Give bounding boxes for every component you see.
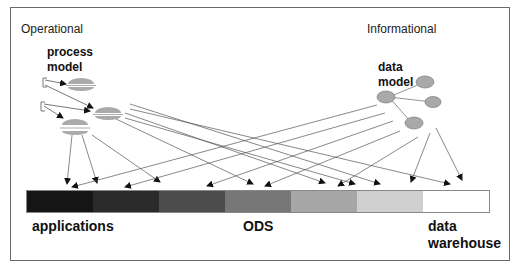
data-warehouse-label-line2: warehouse bbox=[428, 235, 501, 252]
bar-segment-3 bbox=[159, 191, 225, 212]
bar-segment-5 bbox=[291, 191, 357, 212]
data-node-1 bbox=[416, 76, 434, 88]
data-spectrum-bar bbox=[26, 190, 490, 213]
bar-segment-2 bbox=[93, 191, 159, 212]
bar-segment-6 bbox=[357, 191, 423, 212]
data-node-root bbox=[377, 91, 395, 103]
data-node-3 bbox=[405, 117, 423, 129]
informational-arrows bbox=[72, 105, 462, 187]
applications-label: applications bbox=[32, 218, 114, 235]
bar-segment-4 bbox=[225, 191, 291, 212]
process-node-2 bbox=[93, 107, 123, 120]
operational-arrows bbox=[67, 104, 450, 184]
bar-segment-1 bbox=[27, 191, 93, 212]
bar-segment-7 bbox=[423, 191, 489, 212]
data-warehouse-label: data warehouse bbox=[428, 218, 501, 252]
process-node-1 bbox=[66, 78, 96, 91]
process-node-3 bbox=[60, 119, 90, 135]
ods-label: ODS bbox=[243, 218, 273, 235]
data-node-2 bbox=[425, 97, 441, 108]
data-warehouse-label-line1: data bbox=[428, 218, 501, 235]
